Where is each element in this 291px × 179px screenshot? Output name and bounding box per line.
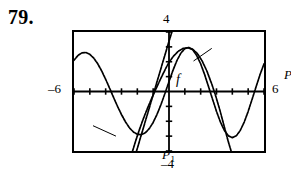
curve-label-f: f bbox=[176, 73, 180, 87]
x-max-label: 6 bbox=[272, 82, 279, 95]
leader-line-p1 bbox=[93, 126, 116, 136]
curve-label-p1-subscript: 1 bbox=[170, 154, 175, 164]
curve-label-p1: P1 bbox=[162, 148, 175, 164]
curve-label-p2: P2 bbox=[284, 68, 291, 84]
y-max-label: 4 bbox=[163, 12, 170, 25]
x-min-label: –6 bbox=[48, 82, 61, 95]
plot-canvas bbox=[74, 32, 264, 151]
problem-number: 79. bbox=[8, 7, 34, 27]
curve-p2 bbox=[133, 48, 231, 151]
figure-root: 79. 4 –4 –6 6 f P1 P2 bbox=[0, 0, 291, 179]
axes-group bbox=[74, 32, 264, 151]
curve-label-p2-name: P bbox=[284, 67, 291, 82]
curve-label-p1-name: P bbox=[162, 147, 170, 162]
calculator-window: f P1 P2 bbox=[72, 30, 266, 153]
